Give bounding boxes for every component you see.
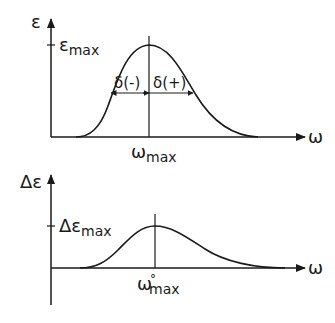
delta-plus-label: δ(+) [153,74,186,92]
bottom-x-axis-label: ω [308,257,323,278]
top-plot: ε ω εmax ωmax δ(-) δ(+) [31,11,323,165]
bottom-plot: Δε ω Δεmax ω ° max [20,171,323,305]
top-x-axis-label: ω [308,126,323,147]
omega-max-label: ωmax [131,141,177,165]
delta-epsilon-max-label: Δεmax [59,215,112,239]
top-y-axis-label: ε [31,11,41,32]
epsilon-max-label: εmax [59,34,99,58]
omega-zero-subscript: max [149,281,180,297]
bottom-y-axis-label: Δε [20,171,42,192]
delta-minus-label: δ(-) [114,74,140,92]
diagram-canvas: ε ω εmax ωmax δ(-) δ(+) Δε ω Δεmax ω ° m… [0,0,335,323]
